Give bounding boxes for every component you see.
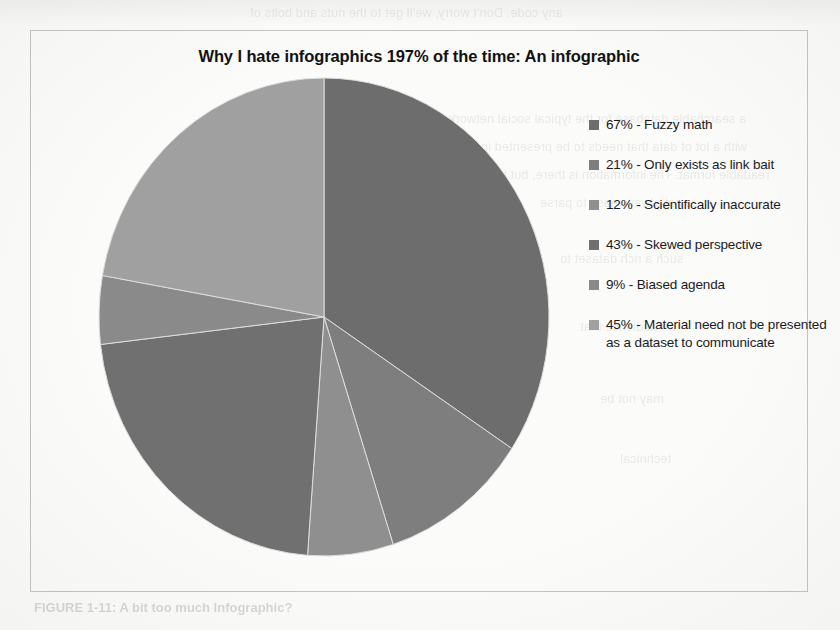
legend-item-label: 21% - Only exists as link bait [606,156,774,174]
legend-item[interactable]: 9% - Biased agenda [589,276,839,294]
chart-legend: 67% - Fuzzy math21% - Only exists as lin… [589,116,839,374]
legend-swatch-icon [589,160,599,170]
pie-chart [91,67,571,567]
legend-swatch-icon [589,280,599,290]
figure-caption-faint: FIGURE 1-11: A bit too much Infographic? [34,600,292,615]
pie-chart-svg [91,67,571,567]
chart-title: Why I hate infographics 197% of the time… [31,47,807,66]
pie-slice[interactable] [102,78,324,317]
bleed-line: any code. Don't worry, we'll get to the … [250,6,563,20]
legend-item[interactable]: 43% - Skewed perspective [589,236,839,254]
pie-slice[interactable] [100,317,324,555]
legend-item-label: 45% - Material need not be presented as … [606,316,839,352]
legend-swatch-icon [589,240,599,250]
legend-item-label: 43% - Skewed perspective [606,236,762,254]
legend-swatch-icon [589,320,599,330]
chart-frame: Why I hate infographics 197% of the time… [30,30,808,592]
legend-swatch-icon [589,120,599,130]
pie-slice-group [99,78,549,556]
legend-item-label: 12% - Scientifically inaccurate [606,196,781,214]
legend-item[interactable]: 45% - Material need not be presented as … [589,316,839,352]
legend-item[interactable]: 21% - Only exists as link bait [589,156,839,174]
legend-item[interactable]: 67% - Fuzzy math [589,116,839,134]
scan-edge-shading [0,0,840,26]
legend-item[interactable]: 12% - Scientifically inaccurate [589,196,839,214]
legend-swatch-icon [589,200,599,210]
legend-item-label: 67% - Fuzzy math [606,116,712,134]
legend-item-label: 9% - Biased agenda [606,276,725,294]
